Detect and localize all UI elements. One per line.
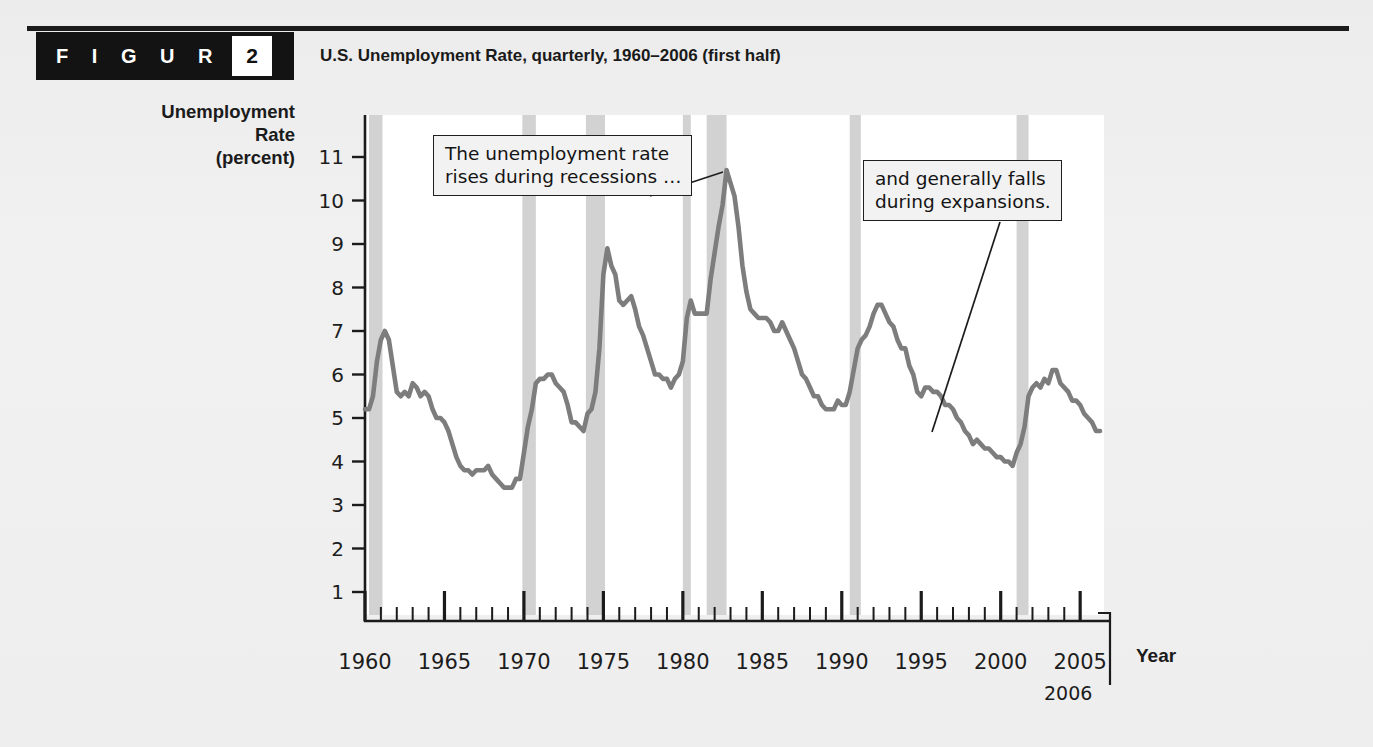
expansion-callout: and generally falls during expansions.	[863, 160, 1062, 221]
y-tick-label: 10	[319, 189, 344, 213]
x-axis-end-label: 2006	[1044, 682, 1092, 704]
x-tick-label: 1965	[418, 650, 471, 674]
y-tick-label: 5	[331, 406, 344, 430]
figure-panel: F I G U R E 2 U.S. Unemployment Rate, qu…	[0, 0, 1373, 747]
y-tick-label: 3	[331, 493, 344, 517]
x-tick-label: 1995	[895, 650, 948, 674]
y-tick-label: 6	[331, 363, 344, 387]
y-axis-ticks: 1110987654321	[319, 145, 365, 604]
y-tick-label: 4	[331, 450, 344, 474]
y-tick-label: 8	[331, 276, 344, 300]
x-tick-label: 1990	[815, 650, 868, 674]
y-tick-label: 1	[331, 580, 344, 604]
x-tick-label: 1975	[577, 650, 630, 674]
y-tick-label: 2	[331, 537, 344, 561]
x-tick-label: 1960	[338, 650, 391, 674]
x-tick-label: 1980	[656, 650, 709, 674]
x-tick-label: 1985	[736, 650, 789, 674]
y-tick-label: 11	[319, 145, 344, 169]
x-axis-title: Year	[1136, 645, 1176, 667]
recession-callout: The unemployment rate rises during reces…	[433, 135, 692, 196]
unemployment-line-chart: 1110987654321196019651970197519801985199…	[0, 0, 1373, 747]
x-tick-label: 2005	[1053, 650, 1106, 674]
x-axis-end-bracket	[1098, 613, 1110, 685]
y-tick-label: 7	[331, 319, 344, 343]
x-tick-label: 1970	[497, 650, 550, 674]
y-tick-label: 9	[331, 232, 344, 256]
x-tick-label: 2000	[974, 650, 1027, 674]
